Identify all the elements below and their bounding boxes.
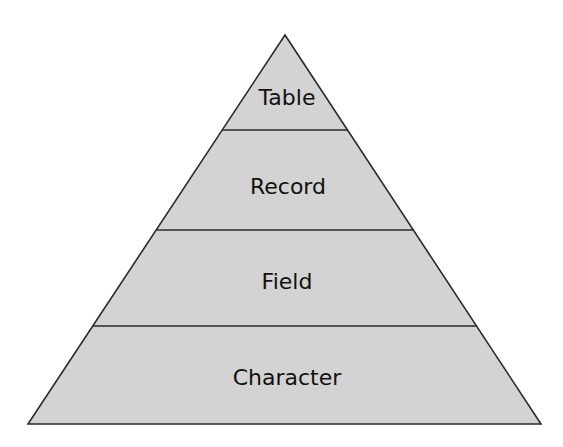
- data-hierarchy-pyramid: Table Record Field Character: [0, 0, 563, 447]
- level-label-record: Record: [250, 174, 326, 199]
- level-label-field: Field: [262, 269, 313, 294]
- level-label-character: Character: [233, 365, 343, 390]
- level-label-table: Table: [258, 85, 316, 110]
